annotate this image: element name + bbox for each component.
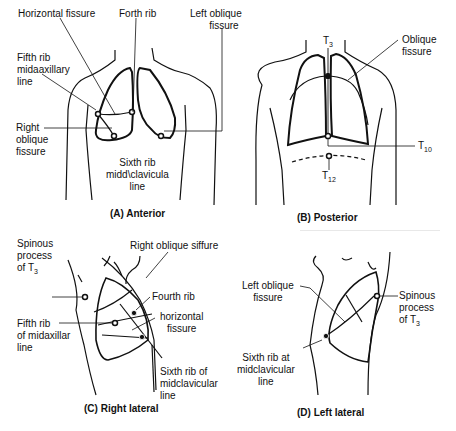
label-line: Right (16, 122, 48, 134)
label-line: Sixth rib of (160, 366, 218, 378)
caption-anterior: (A) Anterior (110, 208, 165, 220)
label-line: Sixth rib (106, 157, 169, 169)
label-t12: T12 (322, 170, 336, 186)
caption-right-lateral: (C) Right lateral (84, 403, 158, 415)
label-subscript: 12 (328, 176, 336, 183)
label-line: of T3 (399, 314, 435, 330)
label-line: midd\clavicula (106, 169, 169, 181)
label-subscript: 3 (329, 41, 333, 48)
label-line: fissure (16, 146, 48, 158)
label-line: Left oblique (242, 280, 294, 292)
label-text: of T (399, 314, 416, 325)
label-subscript: 3 (416, 320, 420, 327)
label-line: of midaxillar (17, 330, 70, 342)
label-line: fissure (160, 323, 203, 335)
label-line: Spinous (399, 290, 435, 302)
label-line: Fifth rib (17, 318, 70, 330)
label-line: Left oblique (190, 8, 242, 20)
label-t3-posterior: T3 (323, 35, 333, 51)
label-line: oblique (16, 134, 48, 146)
label-sixth-rib-midclavicular-c: Sixth rib of midclavicular line (160, 366, 218, 402)
caption-posterior: (B) Posterior (297, 212, 358, 224)
left-lateral-figure (300, 252, 398, 395)
label-spinous-process-c: Spinous process of T3 (17, 238, 53, 278)
label-line: of T3 (17, 262, 53, 278)
label-line: Fifth rib (17, 52, 70, 64)
label-line: Sixth rib at (237, 352, 295, 364)
label-text: of T (17, 262, 34, 273)
label-line: line (160, 390, 218, 402)
label-sixth-rib-midclavicular-d: Sixth rib at midclavicular line (237, 352, 295, 388)
label-line: horizontal (160, 311, 203, 323)
label-line: line (106, 181, 169, 193)
label-t10: T10 (418, 140, 432, 156)
label-line: line (17, 76, 70, 88)
label-right-oblique-fissure-a: Right oblique fissure (16, 122, 48, 158)
label-line: midaaxillary (17, 64, 70, 76)
label-horizontal-fissure-c: horizontal fissure (160, 311, 203, 335)
caption-left-lateral: (D) Left lateral (297, 407, 364, 419)
label-fifth-rib-midaxillary: Fifth rib midaaxillary line (17, 52, 70, 88)
label-line: line (237, 376, 295, 388)
label-line: Oblique (402, 34, 436, 46)
label-line: line (17, 342, 70, 354)
label-left-oblique-fissure-a: Left oblique fissure (190, 8, 242, 32)
label-line: Spinous (17, 238, 53, 250)
label-horizontal-fissure: Horizontal fissure (18, 8, 95, 20)
label-sixth-rib-midclavicular-a: Sixth rib midd\clavicula line (106, 157, 169, 193)
label-forth-rib: Forth rib (119, 8, 156, 20)
label-line: midclavicular (237, 364, 295, 376)
label-fourth-rib: Fourth rib (152, 291, 195, 303)
label-spinous-process-d: Spinous process of T3 (399, 290, 435, 330)
label-line: fissure (242, 292, 294, 304)
label-line: midclavicular (160, 378, 218, 390)
label-line: process (17, 250, 53, 262)
label-line: fissure (402, 46, 436, 58)
label-left-oblique-fissure-d: Left oblique fissure (242, 280, 294, 304)
label-line: process (399, 302, 435, 314)
label-subscript: 3 (34, 268, 38, 275)
label-oblique-fissure-b: Oblique fissure (402, 34, 436, 58)
label-line: fissure (190, 20, 242, 32)
label-subscript: 10 (424, 146, 432, 153)
label-fifth-rib-midaxillar-c: Fifth rib of midaxillar line (17, 318, 70, 354)
label-right-oblique-siffure: Right oblique siffure (130, 240, 218, 252)
